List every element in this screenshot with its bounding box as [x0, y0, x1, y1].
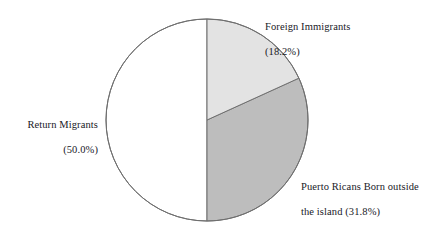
pie-label-foreign-immigrants: Foreign Immigrants (18.2%)	[265, 9, 430, 70]
pie-label-return-migrants: Return Migrants (50.0%)	[0, 107, 98, 168]
pie-label-puerto-ricans-name: Puerto Ricans Born outside	[301, 181, 440, 193]
pie-slice-return-migrants	[106, 19, 207, 221]
pie-label-puerto-ricans: Puerto Ricans Born outside the island (3…	[301, 169, 440, 230]
pie-label-foreign-immigrants-value: (18.2%)	[265, 46, 430, 58]
pie-label-return-migrants-value: (50.0%)	[0, 144, 98, 156]
pie-label-puerto-ricans-value: the island (31.8%)	[301, 206, 440, 218]
pie-chart: Foreign Immigrants (18.2%) Return Migran…	[0, 0, 440, 236]
pie-label-return-migrants-name: Return Migrants	[0, 119, 98, 131]
pie-label-foreign-immigrants-name: Foreign Immigrants	[265, 21, 430, 33]
